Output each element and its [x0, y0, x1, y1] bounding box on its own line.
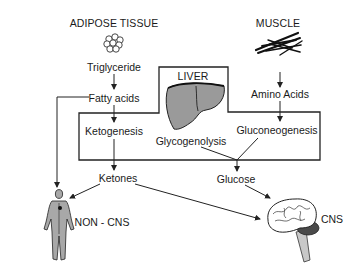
muscle-fibers-icon	[256, 33, 302, 55]
muscle-label: MUSCLE	[256, 18, 300, 29]
arrow-ketones-cns	[135, 184, 260, 219]
node-gluconeogenesis: Gluconeogenesis	[236, 125, 317, 136]
arrow-fatty-acids-non-cns	[57, 97, 89, 187]
liver-icon	[166, 83, 224, 129]
node-ketogenesis: Ketogenesis	[85, 126, 143, 137]
node-triglyceride: Triglyceride	[87, 62, 141, 73]
line-glycogenolysis-glucose	[201, 147, 237, 160]
node-glycogenolysis: Glycogenolysis	[156, 136, 227, 147]
node-glucose: Glucose	[217, 174, 256, 185]
brain-icon	[268, 199, 319, 262]
arrow-glucose-cns	[245, 185, 270, 198]
node-amino-acids: Amino Acids	[251, 89, 309, 100]
line-gluconeogenesis-glucose	[237, 138, 258, 160]
human-body-icon	[44, 190, 74, 260]
arrow-ketones-non-cns	[70, 184, 100, 198]
adipose-tissue-label: ADIPOSE TISSUE	[70, 18, 159, 29]
node-fatty-acids: Fatty acids	[89, 93, 140, 104]
metabolic-fuel-diagram: ADIPOSE TISSUE MUSCLE LIVER Triglyceride…	[0, 0, 349, 275]
target-cns-label: CNS	[321, 214, 343, 225]
fat-cell-cluster-icon	[104, 34, 123, 52]
liver-label: LIVER	[178, 71, 209, 82]
node-ketones: Ketones	[99, 173, 138, 184]
target-non-cns-label: NON - CNS	[75, 217, 130, 228]
